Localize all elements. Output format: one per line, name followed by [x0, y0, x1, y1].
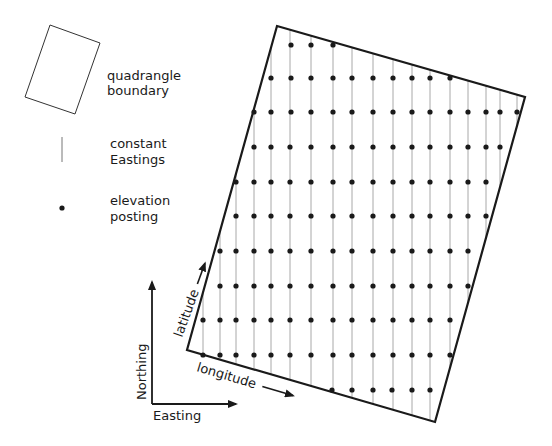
elevation-posting: [251, 248, 256, 253]
quadrangle-boundary: [187, 26, 525, 422]
elevation-posting: [483, 144, 488, 149]
elevation-posting: [465, 213, 470, 218]
elevation-posting: [370, 352, 375, 357]
elevation-posting: [465, 283, 470, 288]
elevation-posting: [390, 317, 395, 322]
quadrangle-boundary-icon: [25, 25, 100, 114]
diagram-canvas: quadrangle boundary constant Eastings el…: [0, 0, 552, 446]
elevation-posting: [465, 109, 470, 114]
elevation-posting: [370, 317, 375, 322]
elevation-posting: [427, 317, 432, 322]
legend-posting: elevation posting: [59, 193, 170, 224]
elevation-posting: [349, 317, 354, 322]
legend-quadrangle-label-2: boundary: [107, 83, 169, 98]
elevation-posting: [409, 179, 414, 184]
elevation-posting: [251, 317, 256, 322]
elevation-posting: [288, 75, 293, 80]
elevation-posting: [514, 109, 519, 114]
elevation-posting: [268, 75, 273, 80]
elevation-posting: [409, 109, 414, 114]
legend-easting-line: constant Eastings: [62, 136, 167, 167]
elevation-posting: [287, 213, 292, 218]
elevation-posting: [447, 179, 452, 184]
elevation-posting: [330, 144, 335, 149]
elevation-posting: [447, 248, 452, 253]
legend-posting-label-1: elevation: [110, 193, 170, 208]
elevation-posting: [349, 352, 354, 357]
elevation-posting: [233, 213, 238, 218]
elevation-posting: [409, 317, 414, 322]
elevation-posting: [370, 75, 375, 80]
elevation-posting: [288, 109, 293, 114]
elevation-posting: [370, 179, 375, 184]
elevation-posting: [268, 352, 273, 357]
elevation-posting: [233, 352, 238, 357]
elevation-posting: [409, 283, 414, 288]
latitude-indicator: latitude: [171, 261, 212, 339]
legend-easting-label-2: Eastings: [110, 152, 165, 167]
elevation-posting: [370, 144, 375, 149]
elevation-posting: [287, 352, 292, 357]
elevation-posting: [287, 317, 292, 322]
elevation-posting: [427, 248, 432, 253]
constant-easting-lines: [203, 30, 517, 421]
elevation-posting: [389, 387, 394, 392]
elevation-posting: [483, 109, 488, 114]
elevation-posting: [390, 352, 395, 357]
elevation-posting: [308, 352, 313, 357]
elevation-posting: [409, 352, 414, 357]
elevation-posting: [447, 213, 452, 218]
elevation-posting: [349, 213, 354, 218]
elevation-posting: [390, 283, 395, 288]
legend-quadrangle-label-1: quadrangle: [107, 68, 181, 83]
elevation-posting: [427, 387, 432, 392]
legend: quadrangle boundary constant Eastings el…: [25, 25, 181, 224]
elevation-posting: [251, 352, 256, 357]
elevation-posting: [390, 75, 395, 80]
elevation-posting: [349, 387, 354, 392]
elevation-posting: [268, 213, 273, 218]
elevation-posting: [330, 109, 335, 114]
elevation-posting: [308, 317, 313, 322]
elevation-posting: [447, 317, 452, 322]
elevation-posting: [390, 179, 395, 184]
elevation-posting: [330, 352, 335, 357]
elevation-posting: [390, 248, 395, 253]
elevation-posting: [483, 213, 488, 218]
elevation-posting: [427, 109, 432, 114]
elevation-posting: [308, 213, 313, 218]
elevation-posting: [409, 387, 414, 392]
elevation-posting: [233, 283, 238, 288]
elevation-posting: [465, 248, 470, 253]
elevation-posting: [308, 248, 313, 253]
elevation-posting: [287, 283, 292, 288]
elevation-posting: [308, 283, 313, 288]
elevation-posting: [409, 75, 414, 80]
elevation-posting: [483, 179, 488, 184]
elevation-posting: [200, 317, 205, 322]
elevation-posting-icon: [59, 205, 64, 210]
elevation-posting: [251, 213, 256, 218]
elevation-posting: [427, 213, 432, 218]
elevation-posting: [217, 317, 222, 322]
elevation-posting: [349, 144, 354, 149]
northing-label: Northing: [134, 344, 149, 400]
elevation-posting: [427, 352, 432, 357]
elevation-posting: [447, 109, 452, 114]
elevation-posting: [370, 109, 375, 114]
elevation-posting: [390, 213, 395, 218]
elevation-posting: [370, 248, 375, 253]
elevation-posting: [268, 317, 273, 322]
legend-quadrangle: quadrangle boundary: [25, 25, 181, 114]
elevation-posting: [349, 179, 354, 184]
elevation-posting: [287, 144, 292, 149]
elevation-posting: [330, 283, 335, 288]
elevation-posting: [370, 387, 375, 392]
elevation-posting: [330, 213, 335, 218]
elevation-posting: [497, 144, 502, 149]
elevation-posting: [497, 109, 502, 114]
elevation-posting: [390, 144, 395, 149]
elevation-posting: [287, 248, 292, 253]
elevation-posting: [370, 283, 375, 288]
elevation-posting: [251, 283, 256, 288]
